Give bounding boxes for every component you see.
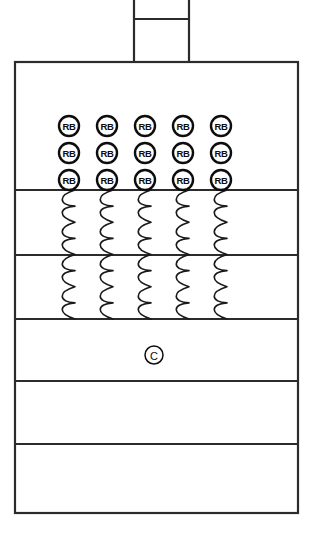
rb-badge-label: RB: [63, 148, 76, 159]
rb-badge: RB: [211, 116, 231, 136]
rb-badge-label: RB: [177, 175, 190, 186]
rb-badge: RB: [97, 116, 117, 136]
rb-badge-label: RB: [139, 121, 152, 132]
vessel-body: [15, 62, 298, 513]
rb-badge: RB: [97, 170, 117, 190]
rb-badge-label: RB: [101, 121, 114, 132]
rb-badge-label: RB: [101, 175, 114, 186]
rb-badge: RB: [173, 116, 193, 136]
rb-badge: RB: [173, 170, 193, 190]
rb-badge-label: RB: [215, 148, 228, 159]
rb-badge-label: RB: [101, 148, 114, 159]
rb-badge: RB: [59, 116, 79, 136]
diagram-root: RBRBRBRBRBRBRBRBRBRBRBRBRBRBRB C: [0, 0, 314, 538]
rb-badge-grid: RBRBRBRBRBRBRBRBRBRBRBRBRBRBRB: [59, 116, 231, 190]
rb-badge-label: RB: [139, 148, 152, 159]
rb-badge: RB: [211, 143, 231, 163]
vessel-body-outline: [15, 62, 298, 513]
section-divider-group: [15, 190, 298, 444]
rb-badge: RB: [97, 143, 117, 163]
center-mark-label: C: [150, 350, 158, 362]
neck-outline: [134, 0, 189, 62]
rb-badge: RB: [211, 170, 231, 190]
rb-badge-label: RB: [215, 121, 228, 132]
rb-badge: RB: [59, 170, 79, 190]
rb-badge: RB: [59, 143, 79, 163]
rb-badge-label: RB: [139, 175, 152, 186]
rb-badge: RB: [173, 143, 193, 163]
rb-badge: RB: [135, 170, 155, 190]
rb-badge-label: RB: [63, 121, 76, 132]
rb-badge: RB: [135, 143, 155, 163]
diagram-canvas: RBRBRBRBRBRBRBRBRBRBRBRBRBRBRB C: [0, 0, 314, 538]
rb-badge-label: RB: [177, 148, 190, 159]
rb-badge-label: RB: [177, 121, 190, 132]
rb-badge-label: RB: [215, 175, 228, 186]
center-mark-c: C: [145, 346, 163, 364]
rb-badge: RB: [135, 116, 155, 136]
neck-outlet: [134, 0, 189, 62]
rb-badge-label: RB: [63, 175, 76, 186]
